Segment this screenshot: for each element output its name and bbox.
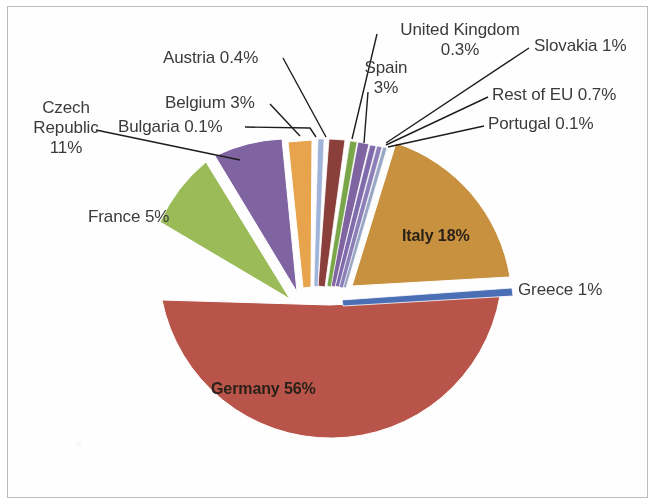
pie-chart: Czech Republic 11% France 5% Bulgaria 0.… xyxy=(0,0,655,504)
slice-label-rest-of-eu: Rest of EU 0.7% xyxy=(492,85,616,105)
pie-chart-svg xyxy=(0,0,655,504)
leader-line-spain xyxy=(364,92,368,143)
leader-line-rest-of-eu xyxy=(386,97,488,145)
slice-label-belgium: Belgium 3% xyxy=(165,93,255,113)
spain-label-line2: 3% xyxy=(374,78,398,97)
slice-label-spain: Spain 3% xyxy=(360,58,412,98)
united-kingdom-label-line1: United Kingdom xyxy=(400,20,520,39)
slice-label-germany: Germany 56% xyxy=(211,379,316,399)
slice-label-bulgaria: Bulgaria 0.1% xyxy=(118,117,223,137)
slice-label-czech-republic: Czech Republic 11% xyxy=(10,98,122,158)
slice-label-slovakia: Slovakia 1% xyxy=(534,36,626,56)
spain-label-line1: Spain xyxy=(365,58,408,77)
slice-label-united-kingdom: United Kingdom 0.3% xyxy=(380,20,540,60)
slice-label-portugal: Portugal 0.1% xyxy=(488,114,594,134)
united-kingdom-label-line2: 0.3% xyxy=(441,40,479,59)
slice-label-greece: Greece 1% xyxy=(518,280,602,300)
czech-republic-label-line1: Czech xyxy=(42,98,90,117)
leader-line-bulgaria xyxy=(245,127,316,137)
slice-label-austria: Austria 0.4% xyxy=(163,48,258,68)
slice-label-italy: Italy 18% xyxy=(402,226,470,246)
leader-line-belgium xyxy=(270,104,300,136)
leader-line-portugal xyxy=(388,126,484,147)
czech-republic-label-line3: 11% xyxy=(50,138,82,157)
czech-republic-label-line2: Republic xyxy=(33,118,98,137)
slice-label-france: France 5% xyxy=(88,207,169,227)
pie-slice-germany[interactable] xyxy=(162,296,500,438)
